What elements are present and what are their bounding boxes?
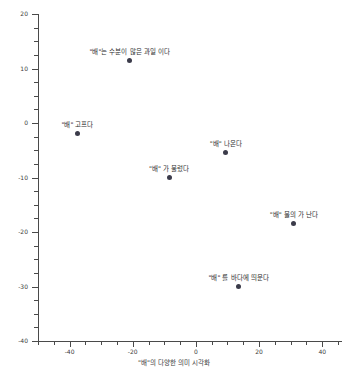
y-tick: 10 [32,69,38,70]
y-tick [34,82,38,83]
x-tick [38,341,39,345]
x-tick: 20 [259,341,260,347]
x-tick-label: 40 [318,349,326,355]
x-tick-label: -40 [65,349,75,355]
data-point-marker [223,150,228,155]
x-tick [117,341,118,345]
x-tick [227,341,228,345]
y-tick: 20 [32,14,38,15]
x-tick [291,341,292,345]
x-tick-label: -20 [128,349,138,355]
y-tick [34,273,38,274]
y-tick [34,246,38,247]
y-tick [34,327,38,328]
x-tick-label: 20 [255,349,263,355]
data-point-label: "배" 가 불렀다 [149,166,189,173]
data-point-marker [167,175,172,180]
y-tick [34,300,38,301]
x-tick [275,341,276,345]
y-tick [34,41,38,42]
x-tick-label: 0 [194,349,198,355]
y-tick [34,314,38,315]
y-tick-label: 20 [20,11,28,17]
x-axis-line [38,341,342,342]
y-tick [34,109,38,110]
x-tick [180,341,181,345]
y-tick [34,55,38,56]
y-tick [34,191,38,192]
data-point-label: "배" 고프다 [61,122,93,129]
x-tick [149,341,150,345]
y-tick-label: -20 [18,229,28,235]
data-point-label: "배" 물의 가 난다 [270,212,318,219]
y-tick [34,164,38,165]
data-point-marker [127,58,132,63]
y-tick [34,96,38,97]
x-tick [85,341,86,345]
y-tick: -30 [32,287,38,288]
y-tick-label: -10 [18,175,28,181]
y-tick [34,150,38,151]
y-tick-label: 10 [20,66,28,72]
data-point-label: "배" 나온다 [210,141,242,148]
x-tick [54,341,55,345]
x-tick [101,341,102,345]
x-tick [212,341,213,345]
data-point-label: "배" 를 바다에 띄운다 [208,275,268,282]
plot-area: 20100-10-20-30-40 -40-2002040 "배"는 수분이 많… [38,14,338,341]
x-tick: -20 [133,341,134,347]
x-tick: 40 [322,341,323,347]
data-point-marker [75,131,80,136]
y-tick-label: 0 [24,120,28,126]
x-tick [338,341,339,345]
data-point-marker [236,284,241,289]
x-tick [306,341,307,345]
x-tick: -40 [70,341,71,347]
y-tick: -10 [32,178,38,179]
data-point-label: "배"는 수분이 많은 과일 이다 [89,49,169,56]
y-tick [34,218,38,219]
y-tick [34,205,38,206]
y-tick: 0 [32,123,38,124]
figure-caption: "배"의 다양한 의미 시각화 [0,360,348,368]
x-tick [164,341,165,345]
y-tick: -20 [32,232,38,233]
data-point-marker [291,221,296,226]
y-tick-label: -30 [18,284,28,290]
x-tick: 0 [196,341,197,347]
y-tick [34,137,38,138]
y-tick [34,28,38,29]
x-tick [243,341,244,345]
y-tick-label: -40 [18,338,28,344]
scatter-plot-figure: 20100-10-20-30-40 -40-2002040 "배"는 수분이 많… [0,0,348,378]
y-tick [34,259,38,260]
